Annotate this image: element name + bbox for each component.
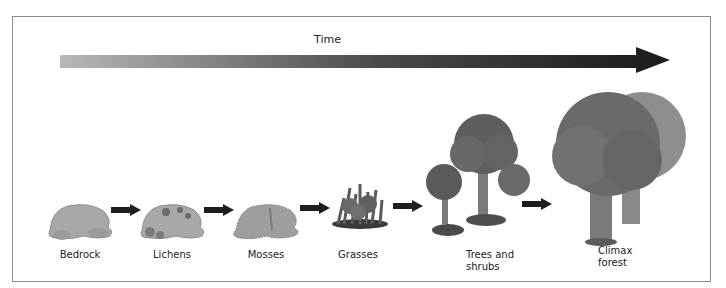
stage-grasses [330,180,390,230]
mossy-rock-icon [230,198,304,242]
label-lichens: Lichens [142,249,202,261]
stage-bedrock [44,200,118,242]
label-bedrock: Bedrock [50,249,110,261]
right-arrow-icon [393,200,423,212]
grass-clump-icon [330,180,390,230]
stage-lichens [136,198,210,242]
bare-rock-icon [44,200,118,242]
label-grasses: Grasses [328,249,388,261]
right-arrow-icon [300,202,330,214]
stage-trees-shrubs [422,108,532,238]
large-trees-icon [538,78,690,248]
time-arrow-icon [60,47,670,73]
label-trees-shrubs: Trees and shrubs [466,249,526,273]
stage-mosses [230,198,304,242]
small-trees-shrubs-icon [422,108,532,238]
rock-with-lichens-icon [136,198,210,242]
time-label: Time [314,33,341,46]
stage-climax-forest [538,78,690,248]
label-climax-forest: Climax forest [598,245,658,269]
label-mosses: Mosses [236,249,296,261]
